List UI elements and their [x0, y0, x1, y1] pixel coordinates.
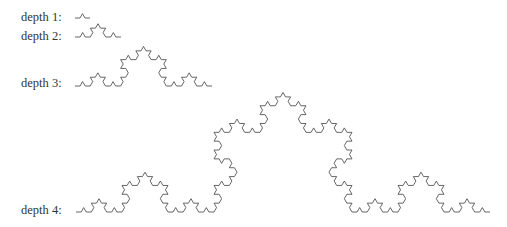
koch-curve-depth-4	[76, 92, 490, 212]
curves-canvas	[0, 0, 507, 227]
koch-curve-depth-1	[75, 14, 90, 18]
koch-curve-depth-2	[75, 24, 121, 37]
koch-curve-depth-3	[75, 46, 212, 86]
